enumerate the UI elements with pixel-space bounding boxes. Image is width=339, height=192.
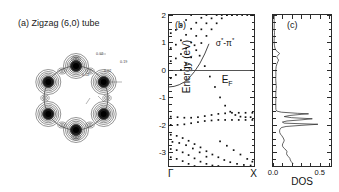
y-tick-mark-dos — [273, 132, 276, 133]
band-dot — [185, 144, 187, 146]
band-dot — [245, 116, 247, 118]
band-structure-svg — [169, 15, 254, 166]
y-tick-mark-dos — [273, 29, 276, 30]
x-tick-mark-dos — [301, 163, 302, 167]
y-tick-mark-dos — [273, 91, 276, 92]
y-tick-mark-dos — [273, 56, 276, 57]
band-dot — [201, 28, 203, 30]
x-axis-label-dos: DOS — [273, 176, 331, 187]
band-dot — [194, 158, 196, 160]
band-dot — [201, 17, 203, 19]
y-tick-mark-dos — [327, 42, 331, 43]
band-dot — [226, 145, 228, 147]
band-dot — [177, 124, 179, 126]
band-dot — [184, 123, 186, 125]
figure-canvas: (a) Zigzag (6,0) tube — [0, 0, 339, 192]
band-dot — [197, 116, 199, 118]
band-dot — [200, 161, 202, 163]
dos-curve-svg — [273, 15, 329, 164]
contour-value-label: 0.19 — [120, 60, 127, 64]
band-dot — [218, 156, 220, 158]
x-tick-mark-dos — [282, 15, 283, 19]
atom-lobe-group — [36, 54, 116, 143]
band-dot — [223, 159, 225, 161]
y-tick-mark-dos — [329, 56, 332, 57]
band-dot — [246, 158, 248, 160]
band-dot — [219, 97, 221, 99]
band-dot — [170, 156, 172, 158]
band-dot — [175, 74, 177, 76]
band-dot — [218, 113, 220, 115]
panel-c-dos-plot: (c) DOS 0.00.5 — [272, 14, 332, 167]
band-dot — [229, 111, 231, 113]
x-tick-mark-dos — [310, 163, 311, 167]
y-tick-mark-dos — [273, 15, 277, 16]
band-dot — [216, 22, 218, 24]
band-dot — [194, 143, 196, 145]
y-tick-mark-dos — [327, 152, 331, 153]
band-dot — [190, 117, 192, 119]
band-dot — [218, 119, 220, 121]
band-dot — [190, 42, 192, 44]
band-dot — [211, 17, 213, 19]
band-dot — [180, 53, 182, 55]
band-dot — [199, 151, 201, 153]
band-dot — [231, 119, 233, 121]
band-dot — [224, 119, 226, 121]
y-tick-mark-dos — [327, 97, 331, 98]
band-dot — [236, 163, 238, 165]
band-dot — [240, 116, 242, 118]
y-tick-mark-dos — [329, 84, 332, 85]
band-dot — [221, 15, 223, 16]
x-tick-x: X — [250, 168, 257, 179]
band-dot — [190, 56, 192, 58]
band-dot — [190, 122, 192, 124]
y-tick-mark-dos — [273, 63, 276, 64]
band-dot — [233, 149, 235, 151]
band-dot — [188, 154, 190, 156]
y-tick-mark-dos — [329, 118, 332, 119]
y-tick-mark-minor — [252, 166, 255, 167]
band-dot — [221, 17, 223, 19]
y-tick-label: -1 — [159, 93, 166, 102]
y-tick-mark-dos — [329, 139, 332, 140]
y-tick-mark-dos — [329, 159, 332, 160]
band-dot — [170, 148, 172, 150]
band-dot — [184, 117, 186, 119]
y-tick-mark-dos — [273, 36, 276, 37]
band-dot — [178, 142, 180, 144]
band-dot — [206, 163, 208, 165]
band-dot — [229, 161, 231, 163]
band-dot — [197, 121, 199, 123]
band-dot — [204, 115, 206, 117]
y-tick-mark-dos — [329, 145, 332, 146]
band-dot — [170, 116, 172, 118]
band-dot — [252, 112, 254, 114]
band-dot — [206, 22, 208, 24]
x-tick-label-dos: 0.5 — [315, 168, 325, 177]
band-dot — [194, 165, 196, 166]
band-dot — [231, 15, 233, 16]
y-tick-mark-dos — [329, 91, 332, 92]
y-tick-label: 0 — [162, 65, 166, 74]
band-dot — [175, 29, 177, 31]
band-dot — [195, 35, 197, 37]
band-dot — [206, 150, 208, 152]
band-dot — [206, 156, 208, 158]
y-tick-mark-minor — [169, 166, 172, 167]
band-dot — [180, 25, 182, 27]
band-dot — [224, 112, 226, 114]
contour-value-label: 0.02 — [96, 52, 103, 56]
x-tick-mark-dos — [292, 163, 293, 167]
band-dot — [204, 65, 206, 67]
y-tick-mark-dos — [329, 111, 332, 112]
panel-a-label: (a) Zigzag (6,0) tube — [18, 18, 100, 28]
band-dot — [177, 116, 179, 118]
y-tick-mark-dos — [327, 125, 331, 126]
y-tick-mark-dos — [329, 63, 332, 64]
band-dot — [170, 32, 172, 34]
band-dot — [185, 34, 187, 36]
band-dot — [201, 42, 203, 44]
y-tick-mark-dos — [329, 22, 332, 23]
y-tick-mark-dos — [329, 36, 332, 37]
